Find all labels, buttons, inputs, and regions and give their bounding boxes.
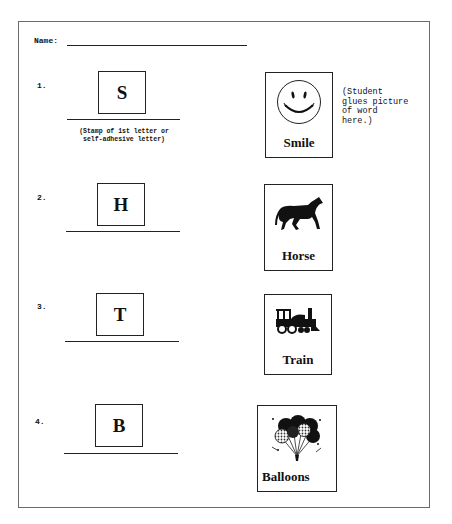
horse-icon — [265, 195, 332, 233]
picture-card: Train — [264, 294, 332, 375]
picture-card: Horse — [264, 184, 333, 271]
letter-box: T — [96, 293, 144, 336]
picture-caption: Horse — [265, 248, 332, 264]
item-number: 2. — [37, 193, 47, 202]
letter-box: B — [95, 404, 143, 447]
item-number: 3. — [37, 302, 47, 311]
balloons-icon — [258, 414, 336, 464]
picture-card: Smile — [265, 72, 333, 158]
item-number: 4. — [35, 417, 45, 426]
name-input-line[interactable] — [67, 45, 247, 46]
picture-caption: Train — [265, 352, 331, 368]
stamp-note-line: self-adhesive letter) — [68, 136, 180, 144]
stamp-note: (Stamp of 1st letter or self-adhesive le… — [68, 128, 180, 144]
write-line[interactable] — [65, 341, 179, 342]
glue-note: (Student glues picture of word here.) — [342, 88, 408, 126]
stamp-note-line: (Stamp of 1st letter or — [68, 128, 180, 136]
picture-caption: Balloons — [258, 469, 336, 485]
picture-card: Balloons — [257, 405, 337, 492]
letter-box: H — [97, 183, 145, 226]
letter-box: S — [98, 71, 146, 114]
write-line[interactable] — [66, 231, 180, 232]
name-label: Name: — [34, 36, 58, 45]
write-line[interactable] — [67, 119, 180, 120]
picture-caption: Smile — [266, 135, 332, 151]
write-line[interactable] — [64, 453, 178, 454]
item-number: 1. — [37, 81, 47, 90]
smiley-face-icon — [266, 79, 332, 125]
train-icon — [265, 307, 331, 335]
